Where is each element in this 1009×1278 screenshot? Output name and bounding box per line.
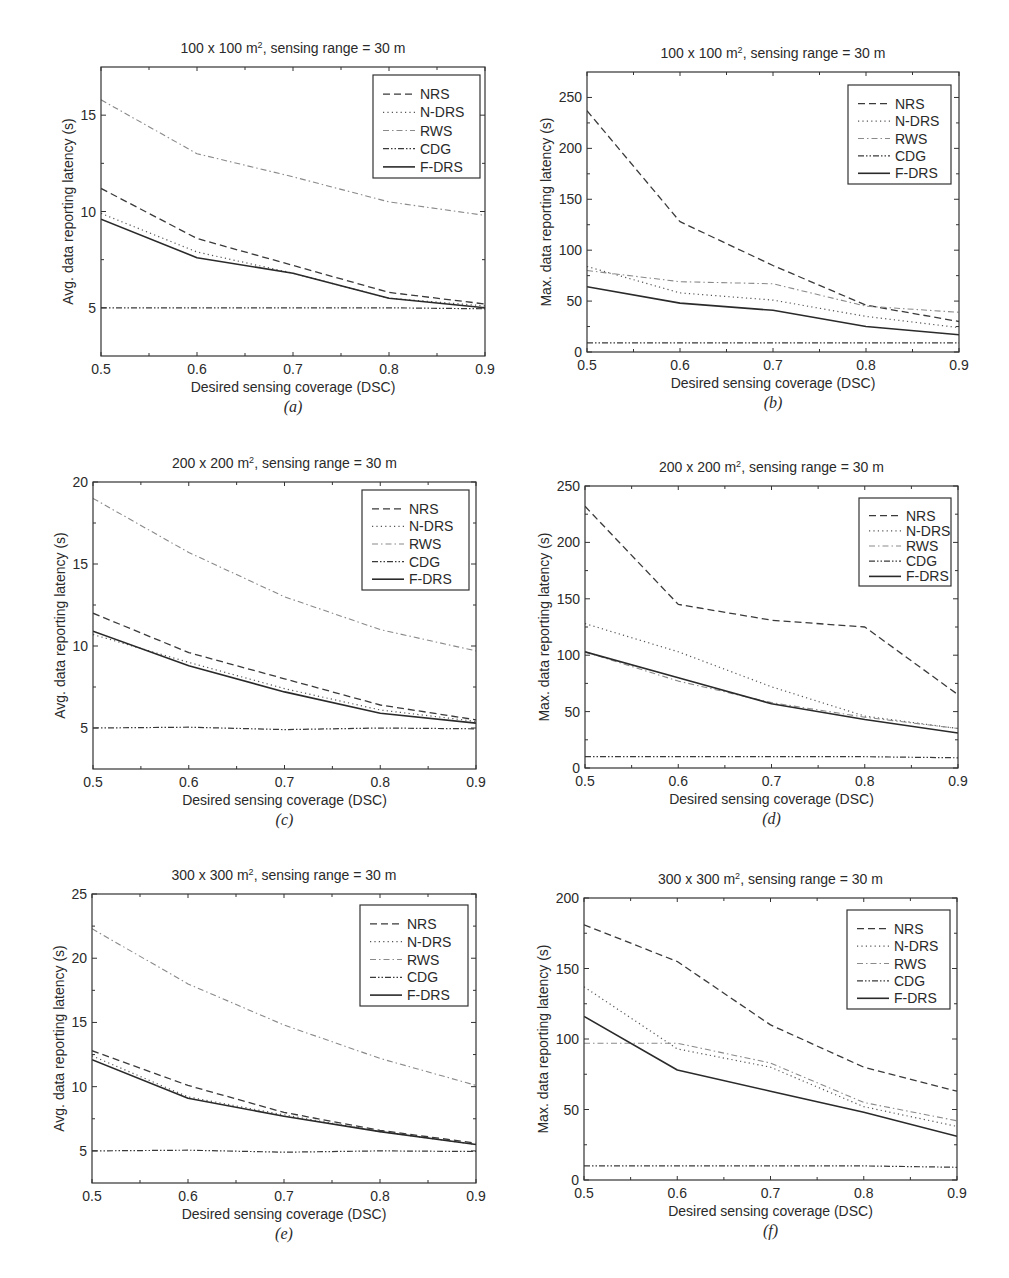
- x-tick-label: 0.8: [856, 357, 876, 373]
- y-tick-label: 20: [71, 950, 87, 966]
- series-line-f-drs: [92, 1060, 476, 1145]
- y-tick-label: 25: [71, 886, 87, 902]
- y-tick-label: 150: [556, 961, 580, 977]
- legend-label-cdg: CDG: [407, 969, 438, 985]
- series-line-n-drs: [585, 624, 958, 729]
- y-tick-label: 5: [79, 1143, 87, 1159]
- series-line-cdg: [101, 308, 485, 309]
- panel-caption: (e): [275, 1225, 293, 1243]
- x-axis-label: Desired sensing coverage (DSC): [669, 791, 874, 807]
- y-tick-label: 200: [557, 534, 581, 550]
- y-tick-label: 10: [80, 204, 96, 220]
- y-axis-label: Avg. data reporting latency (s): [60, 118, 76, 305]
- y-tick-label: 50: [563, 1102, 579, 1118]
- x-tick-label: 0.6: [179, 774, 199, 790]
- series-line-f-drs: [101, 219, 485, 308]
- legend-label-nrs: NRS: [407, 916, 437, 932]
- y-tick-label: 5: [80, 720, 88, 736]
- x-tick-label: 0.9: [947, 1185, 967, 1201]
- chart-title-rest: , sensing range = 30 m: [254, 455, 397, 471]
- legend-label-nrs: NRS: [894, 921, 924, 937]
- x-tick-label: 0.6: [187, 361, 207, 377]
- legend-label-nrs: NRS: [895, 96, 925, 112]
- x-axis-label: Desired sensing coverage (DSC): [671, 375, 876, 391]
- y-tick-label: 100: [559, 242, 583, 258]
- x-tick-label: 0.6: [668, 1185, 688, 1201]
- y-tick-label: 250: [557, 478, 581, 494]
- legend-label-n-drs: N-DRS: [409, 518, 453, 534]
- x-tick-label: 0.6: [178, 1188, 198, 1204]
- chart-title-rest: , sensing range = 30 m: [740, 871, 883, 887]
- legend-label-f-drs: F-DRS: [895, 165, 938, 181]
- x-tick-label: 0.7: [763, 357, 783, 373]
- legend-label-rws: RWS: [906, 538, 938, 554]
- chart-title-rest: , sensing range = 30 m: [254, 867, 397, 883]
- chart-title: 300 x 300 m2, sensing range = 30 m: [658, 871, 883, 887]
- x-tick-label: 0.9: [949, 357, 969, 373]
- chart-title: 100 x 100 m2, sensing range = 30 m: [661, 45, 886, 61]
- y-axis-label: Max. data reporting latency (s): [536, 532, 552, 721]
- y-tick-label: 200: [559, 140, 583, 156]
- x-tick-label: 0.8: [855, 773, 875, 789]
- series-line-cdg: [585, 757, 958, 758]
- panel-caption: (b): [764, 394, 783, 412]
- x-tick-label: 0.7: [283, 361, 303, 377]
- x-tick-label: 0.9: [466, 1188, 486, 1204]
- legend-label-f-drs: F-DRS: [409, 571, 452, 587]
- chart-title-rest: , sensing range = 30 m: [741, 459, 884, 475]
- series-line-rws: [587, 271, 959, 313]
- y-tick-label: 250: [559, 89, 583, 105]
- series-line-cdg: [93, 727, 476, 729]
- x-axis-label: Desired sensing coverage (DSC): [668, 1203, 873, 1219]
- legend-label-rws: RWS: [895, 131, 927, 147]
- series-line-nrs: [92, 1051, 476, 1144]
- panel-caption: (a): [284, 398, 303, 416]
- legend-label-n-drs: N-DRS: [906, 523, 950, 539]
- y-tick-label: 50: [566, 293, 582, 309]
- chart-panel-c: 200 x 200 m2, sensing range = 30 m0.50.6…: [52, 455, 486, 829]
- x-tick-label: 0.6: [670, 357, 690, 373]
- legend-label-rws: RWS: [894, 956, 926, 972]
- y-tick-label: 15: [71, 1014, 87, 1030]
- series-line-f-drs: [93, 631, 476, 723]
- legend-label-n-drs: N-DRS: [894, 938, 938, 954]
- y-tick-label: 10: [71, 1079, 87, 1095]
- series-line-nrs: [101, 188, 485, 304]
- legend-label-cdg: CDG: [894, 973, 925, 989]
- x-tick-label: 0.7: [274, 1188, 294, 1204]
- y-tick-label: 100: [557, 647, 581, 663]
- legend: NRSN-DRSRWSCDGF-DRS: [847, 910, 950, 1009]
- panel-caption: (f): [763, 1222, 778, 1240]
- y-tick-label: 50: [564, 704, 580, 720]
- legend: NRSN-DRSRWSCDGF-DRS: [360, 905, 468, 1006]
- y-tick-label: 100: [556, 1031, 580, 1047]
- chart-title: 100 x 100 m2, sensing range = 30 m: [181, 40, 406, 56]
- legend-label-cdg: CDG: [906, 553, 937, 569]
- x-tick-label: 0.6: [669, 773, 689, 789]
- legend-label-rws: RWS: [407, 952, 439, 968]
- legend-label-f-drs: F-DRS: [894, 990, 937, 1006]
- y-tick-label: 150: [559, 191, 583, 207]
- y-tick-label: 0: [574, 344, 582, 360]
- y-axis-label: Avg. data reporting latency (s): [51, 945, 67, 1132]
- legend-label-f-drs: F-DRS: [420, 159, 463, 175]
- legend: NRSN-DRSRWSCDGF-DRS: [859, 498, 951, 586]
- chart-title-main: 200 x 200 m: [172, 455, 249, 471]
- legend-label-cdg: CDG: [895, 148, 926, 164]
- x-tick-label: 0.5: [83, 774, 103, 790]
- y-tick-label: 200: [556, 890, 580, 906]
- legend-label-rws: RWS: [420, 123, 452, 139]
- panel-caption: (c): [276, 811, 294, 829]
- y-tick-label: 150: [557, 591, 581, 607]
- series-line-cdg: [92, 1150, 476, 1152]
- legend-label-rws: RWS: [409, 536, 441, 552]
- x-tick-label: 0.8: [370, 1188, 390, 1204]
- x-tick-label: 0.8: [371, 774, 391, 790]
- chart-panel-e: 300 x 300 m2, sensing range = 30 m0.50.6…: [51, 867, 486, 1243]
- legend-label-f-drs: F-DRS: [407, 987, 450, 1003]
- y-tick-label: 20: [72, 474, 88, 490]
- x-tick-label: 0.5: [91, 361, 111, 377]
- x-tick-label: 0.8: [854, 1185, 874, 1201]
- chart-panel-f: 300 x 300 m2, sensing range = 30 m0.50.6…: [535, 871, 967, 1240]
- chart-title-main: 100 x 100 m: [661, 45, 738, 61]
